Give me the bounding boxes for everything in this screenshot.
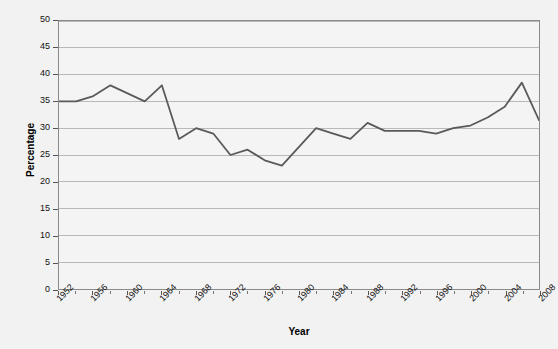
x-tick-mark-minor [454,291,455,294]
x-tick-mark-minor [75,291,76,294]
y-tick-label: 50 [20,15,50,24]
x-tick-mark-minor [420,291,421,294]
plot-area [58,20,540,290]
x-axis-label: Year [288,326,309,337]
y-tick-label: 15 [20,204,50,213]
y-tick-label: 40 [20,69,50,78]
y-tick-label: 45 [20,42,50,51]
x-tick-mark-minor [213,291,214,294]
y-tick-label: 25 [20,150,50,159]
x-tick-mark-minor [488,291,489,294]
y-tick-label: 10 [20,231,50,240]
x-tick-mark-minor [351,291,352,294]
x-tick-mark-minor [247,291,248,294]
y-tick-label: 35 [20,96,50,105]
x-tick-mark-minor [282,291,283,294]
y-tick-label: 20 [20,177,50,186]
y-tick-label: 5 [20,258,50,267]
x-tick-mark-minor [110,291,111,294]
y-tick-label: 30 [20,123,50,132]
line-chart: Percentage 05101520253035404550 19521956… [0,0,558,349]
x-tick-label: 2008 [537,283,558,304]
x-tick-mark-minor [316,291,317,294]
x-tick-mark-minor [179,291,180,294]
data-series-line [59,21,539,289]
series-path [59,83,539,166]
x-tick-mark-minor [385,291,386,294]
x-tick-mark-minor [523,291,524,294]
y-tick-label: 0 [20,285,50,294]
x-tick-mark-minor [144,291,145,294]
x-axis-label-container: Year [0,326,558,337]
